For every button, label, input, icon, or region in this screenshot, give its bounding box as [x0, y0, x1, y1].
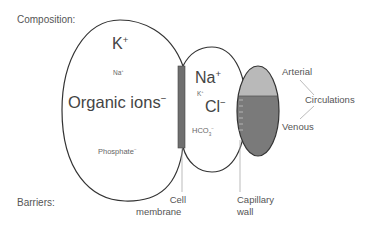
- intracellular-phosphate: Phosphate−: [98, 148, 137, 156]
- capillary-wall-label-line2: wall: [237, 207, 253, 217]
- interstitial-cl: Cl−: [205, 99, 226, 115]
- intracellular-na: Na+: [113, 70, 124, 77]
- circulations-label: Circulations: [305, 95, 355, 105]
- intracellular-k: K+: [112, 36, 128, 52]
- interstitial-na: Na+: [195, 70, 221, 86]
- cell-membrane-bar: [178, 66, 185, 148]
- arterial-label: Arterial: [282, 67, 312, 77]
- venous-label: Venous: [282, 122, 314, 132]
- venous-leader: [300, 106, 314, 119]
- arterial-leader: [300, 80, 314, 95]
- capillary-wall-label-line1: Capillary: [237, 195, 274, 205]
- intracellular-organic-ions: Organic ions−: [68, 94, 166, 111]
- composition-label: Composition:: [17, 15, 75, 25]
- barriers-label: Barriers:: [17, 198, 55, 208]
- cell-membrane-label-line1: Cell: [166, 195, 186, 205]
- cell-membrane-label-line2: membrane: [136, 207, 181, 217]
- interstitial-hco3: HCO3−: [192, 127, 214, 135]
- interstitial-k: K+: [197, 91, 204, 98]
